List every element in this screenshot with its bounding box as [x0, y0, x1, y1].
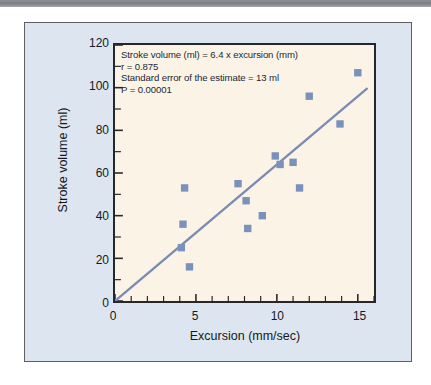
regression-line — [115, 88, 368, 301]
y-tick-label: 0 — [75, 296, 109, 310]
y-tick-label: 60 — [75, 166, 109, 180]
x-axis-title: Excursion (mm/sec) — [85, 329, 405, 343]
annotation-std-error: Standard error of the estimate = 13 ml — [121, 72, 371, 84]
y-tick-label: 40 — [75, 209, 109, 223]
x-axis-tick-labels: 051015 — [113, 309, 376, 327]
y-axis-title: Stroke volume (ml) — [56, 70, 70, 250]
statistics-annotation: Stroke volume (ml) = 6.4 x excursion (mm… — [121, 49, 371, 95]
x-tick-label: 10 — [262, 309, 292, 323]
annotation-r-value: r = 0.875 — [121, 61, 371, 73]
x-tick-label: 0 — [98, 309, 128, 323]
annotation-p-value: P = 0.00001 — [121, 84, 371, 96]
x-tick-label: 5 — [180, 309, 210, 323]
top-decorative-band — [0, 0, 431, 7]
annotation-equation: Stroke volume (ml) = 6.4 x excursion (mm… — [121, 49, 371, 61]
y-tick-label: 80 — [75, 123, 109, 137]
y-axis-tick-labels: 020406080100120 — [69, 43, 109, 303]
figure-card: Stroke volume (ml) = 6.4 x excursion (mm… — [24, 22, 412, 362]
x-tick-label: 15 — [345, 309, 375, 323]
y-tick-label: 100 — [75, 79, 109, 93]
y-tick-label: 20 — [75, 253, 109, 267]
y-tick-label: 120 — [75, 36, 109, 50]
